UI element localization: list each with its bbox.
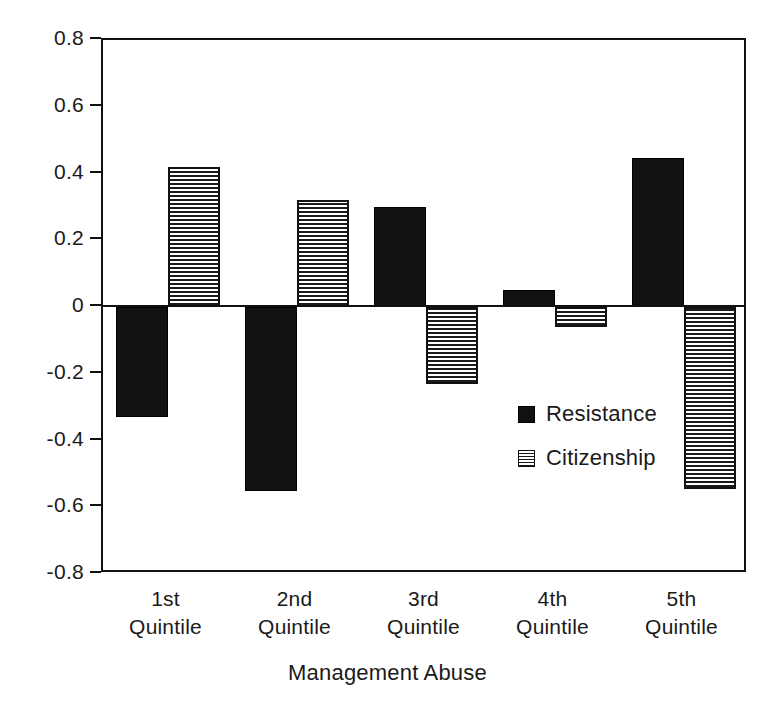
y-axis-tick-label: 0.4 — [54, 159, 84, 184]
x-axis-group-label-5: 5thQuintile — [602, 585, 762, 641]
bar-citizenship-group-2 — [297, 200, 349, 307]
bar-citizenship-group-1 — [168, 167, 220, 307]
y-axis-tick-mark — [90, 171, 101, 173]
x-axis-title: Management Abuse — [0, 660, 775, 686]
y-axis-tick-mark — [90, 37, 101, 39]
bar-citizenship-group-3 — [426, 307, 478, 384]
y-axis-tick-mark — [90, 304, 101, 306]
y-axis-tick-mark — [90, 571, 101, 573]
bar-resistance-group-5 — [632, 158, 684, 307]
legend-label-citizenship: Citizenship — [546, 445, 656, 471]
chart-legend: Resistance Citizenship — [518, 392, 657, 480]
y-axis-tick-label: 0 — [72, 292, 84, 317]
legend-swatch-solid-icon — [518, 406, 535, 423]
bar-citizenship-group-4 — [555, 307, 607, 327]
x-label-line2: Quintile — [602, 613, 762, 641]
y-axis-tick-mark — [90, 371, 101, 373]
y-axis-tick-label: 0.8 — [54, 25, 84, 50]
y-axis-tick-label: 0.6 — [54, 92, 84, 117]
y-axis-tick-mark — [90, 504, 101, 506]
y-axis-tick-mark — [90, 237, 101, 239]
bar-resistance-group-1 — [116, 307, 168, 417]
bar-resistance-group-3 — [374, 207, 426, 307]
bar-resistance-group-2 — [245, 307, 297, 491]
y-axis-tick-label: -0.2 — [47, 359, 84, 384]
y-axis-tick-label: 0.2 — [54, 225, 84, 250]
legend-entry-citizenship: Citizenship — [518, 436, 657, 480]
bar-citizenship-group-5 — [684, 307, 736, 489]
y-axis-tick-label: -0.6 — [47, 492, 84, 517]
y-axis-tick-mark — [90, 104, 101, 106]
legend-entry-resistance: Resistance — [518, 392, 657, 436]
zero-baseline — [103, 305, 744, 307]
y-axis-tick-label: -0.4 — [47, 426, 84, 451]
x-label-line1: 5th — [602, 585, 762, 613]
bar-chart-figure: 0.80.60.40.20-0.2-0.4-0.6-0.8 1stQuintil… — [0, 0, 775, 728]
legend-label-resistance: Resistance — [546, 401, 657, 427]
y-axis-tick-label: -0.8 — [47, 559, 84, 584]
legend-swatch-crosshatch-icon — [518, 450, 535, 467]
y-axis-tick-mark — [90, 438, 101, 440]
